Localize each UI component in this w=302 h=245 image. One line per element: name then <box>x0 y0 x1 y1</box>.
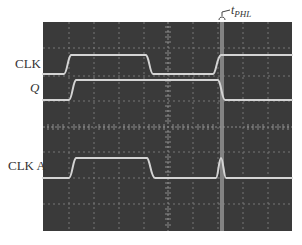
tphl-bracket <box>219 10 230 20</box>
tphl-annotation: tPHL <box>231 4 251 19</box>
oscilloscope-figure <box>0 0 302 245</box>
channel-label-clk-a: CLK A <box>8 159 46 172</box>
tphl-subscript: PHL <box>234 9 251 19</box>
channel-label-clk: CLK <box>15 57 41 70</box>
channel-label-q: Q <box>30 81 39 94</box>
